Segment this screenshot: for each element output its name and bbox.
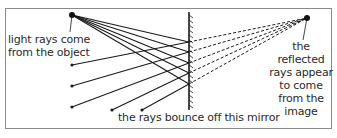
object-label: light rays come from the object <box>8 33 118 59</box>
image-label-line4: from the <box>268 92 334 105</box>
image-label-line3: to come <box>268 79 334 92</box>
object-label-line1: light rays come <box>8 33 118 46</box>
object-label-line2: from the object <box>8 46 118 59</box>
image-label-leader <box>303 18 307 40</box>
mirror-label: the rays bounce off this mirror <box>118 111 318 124</box>
arrowhead-icons <box>70 63 143 111</box>
image-label-line2: rays appear <box>268 66 334 79</box>
mirror <box>189 12 193 110</box>
image-label: the reflected rays appear to come from t… <box>268 40 334 118</box>
image-label-line1: the reflected <box>268 40 334 66</box>
